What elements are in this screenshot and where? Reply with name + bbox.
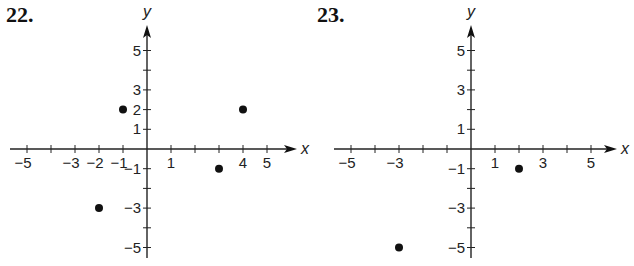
y-axis-label: y [142, 3, 152, 20]
data-point [95, 204, 103, 212]
x-tick-label: 1 [491, 154, 499, 171]
x-tick-label: 3 [539, 154, 547, 171]
y-tick-label: −1 [124, 160, 141, 177]
y-tick-label: 1 [133, 120, 141, 137]
coordinate-plane: xy−5−3−2−11455321−1−3−5 [0, 0, 317, 266]
x-tick-label: −5 [14, 154, 31, 171]
y-tick-label: −5 [124, 239, 141, 256]
y-tick-label: 3 [457, 81, 465, 98]
x-tick-label: −5 [338, 154, 355, 171]
x-tick-label: 4 [239, 154, 247, 171]
graph-23: 23. xy−5−3135531−1−3−5 [317, 0, 634, 266]
x-tick-label: 5 [587, 154, 595, 171]
y-tick-label: 5 [133, 42, 141, 59]
x-tick-label: −3 [62, 154, 79, 171]
coordinate-plane: xy−5−3135531−1−3−5 [317, 0, 634, 266]
data-point [395, 244, 403, 252]
data-point [515, 165, 523, 173]
y-axis-label: y [466, 3, 476, 20]
x-axis-label: x [300, 140, 310, 157]
x-tick-label: 1 [167, 154, 175, 171]
data-point [119, 106, 127, 114]
y-tick-label: 1 [457, 120, 465, 137]
y-tick-label: 5 [457, 42, 465, 59]
graph-22: 22. xy−5−3−2−11455321−1−3−5 [0, 0, 317, 266]
x-tick-label: −2 [86, 154, 103, 171]
y-tick-label: −1 [448, 160, 465, 177]
data-point [215, 165, 223, 173]
x-tick-label: −3 [386, 154, 403, 171]
y-tick-label: −5 [448, 239, 465, 256]
y-tick-label: 2 [133, 101, 141, 118]
y-tick-label: −3 [124, 199, 141, 216]
x-tick-label: 5 [263, 154, 271, 171]
y-tick-label: −3 [448, 199, 465, 216]
x-axis-label: x [620, 140, 630, 157]
data-point [239, 106, 247, 114]
y-tick-label: 3 [133, 81, 141, 98]
